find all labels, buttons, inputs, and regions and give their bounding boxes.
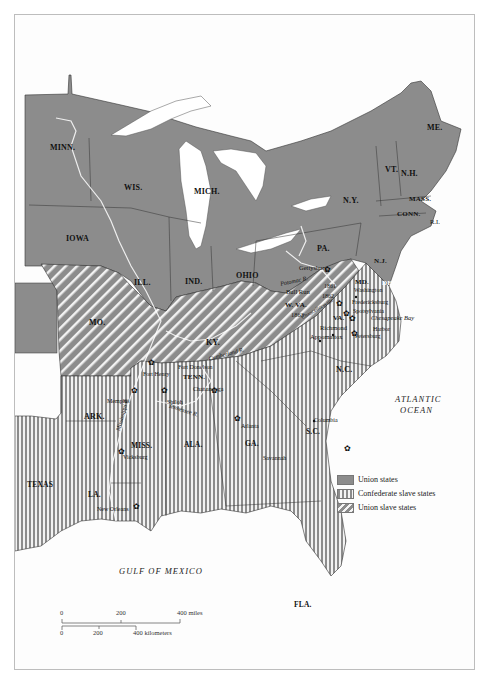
atlantic-ocean-label-line2: OCEAN (400, 405, 433, 415)
city-petersburg: Petersburg (355, 333, 381, 339)
state-label-ohio: OHIO (236, 271, 259, 280)
union-slave-swatch (337, 503, 354, 513)
legend-label-confederate: Confederate slave states (358, 489, 435, 498)
city-fort-henry: Fort Henry (143, 371, 170, 377)
svg-text:✿: ✿ (234, 414, 241, 423)
state-label-nh: N.H. (401, 169, 418, 178)
svg-text:✿: ✿ (349, 314, 356, 323)
legend-item-union-slave: Union slave states (337, 501, 435, 514)
city-harbor: Harbor (373, 326, 390, 332)
scale-miles-400: 400 miles (177, 609, 202, 616)
svg-text:✿: ✿ (148, 358, 155, 367)
city-savannah: Savannah (263, 455, 286, 461)
state-label-pa: PA. (317, 244, 330, 253)
state-label-la: LA. (88, 490, 101, 499)
state-label-mich: MICH. (194, 187, 220, 196)
state-label-wva: W. VA. (285, 301, 307, 309)
state-label-vt: VT. (385, 165, 398, 174)
city-richmond: Richmond (320, 324, 347, 331)
state-label-tenn: TENN. (183, 373, 205, 381)
state-label-fla: FLA. (294, 600, 312, 609)
map-frame: ✿ ✿ ✿ ✿ ✿ ✿ ✿ ✿ ✿ ✿ ✿ ✿ ✿ MINN. WIS. MIC… (14, 14, 475, 670)
state-label-ind: IND. (185, 277, 202, 286)
union-swatch (337, 475, 354, 485)
state-label-ill: ILL. (134, 278, 151, 287)
state-label-mo: MO. (89, 318, 105, 327)
gulf-of-mexico-label: GULF OF MEXICO (119, 566, 203, 576)
state-label-me: ME. (427, 123, 443, 132)
legend-item-union: Union states (337, 473, 435, 486)
map-legend: Union states Confederate slave states Un… (337, 473, 435, 515)
scale-miles-200: 200 (116, 609, 126, 616)
city-new-orleans: New Orleans (97, 506, 129, 512)
state-label-ga: GA. (245, 439, 259, 448)
state-label-texas: TEXAS (27, 480, 53, 489)
state-label-ark: ARK. (84, 412, 105, 421)
chesapeake-bay-label: Chesapeake Bay (371, 314, 414, 321)
scale-miles-0: 0 (60, 609, 63, 616)
city-chattanooga: Chattanooga (193, 386, 223, 392)
city-gettysburg: Gettysburg (299, 264, 328, 271)
state-label-sc: S.C. (306, 427, 320, 436)
legend-label-union-slave: Union slave states (358, 503, 416, 512)
state-label-nc: N.C. (336, 365, 352, 374)
scale-km-400: 400 kilometers (133, 629, 172, 636)
state-label-ri: R.I. (430, 218, 440, 225)
city-bull-run: Bull Run (286, 288, 310, 295)
state-label-va: VA. (333, 314, 345, 322)
city-fort-donelson: Fort Donelson (178, 364, 213, 370)
state-label-ky: KY. (206, 338, 220, 347)
svg-text:✿: ✿ (161, 386, 168, 395)
state-label-conn: CONN. (397, 210, 420, 218)
scale-km-200: 200 (93, 629, 103, 636)
city-appomattox: Appomattox (310, 333, 343, 340)
state-label-iowa: IOWA (66, 234, 89, 243)
state-label-del: DEL. (382, 279, 399, 287)
scale-bar: 0 200 400 miles 0 200 400 kilometers (59, 605, 239, 645)
city-fredericksburg: Fredericksburg (352, 299, 388, 305)
svg-text:✿: ✿ (133, 502, 140, 511)
svg-text:✿: ✿ (344, 444, 351, 453)
kansas-region (15, 283, 57, 353)
svg-text:✿: ✿ (131, 386, 138, 395)
confederate-swatch (337, 489, 354, 499)
state-label-md: MD. (355, 278, 369, 286)
state-label-ny: N.Y. (343, 196, 359, 205)
city-atlanta: Atlanta (241, 423, 259, 429)
city-washington: Washington (354, 287, 383, 293)
legend-label-union: Union states (358, 475, 398, 484)
svg-text:✿: ✿ (336, 299, 343, 308)
atlantic-ocean-label-line1: ATLANTIC (395, 394, 441, 404)
city-vicksburg: Vicksburg (123, 454, 148, 460)
year-1861: 1861 (324, 283, 336, 289)
legend-item-confederate: Confederate slave states (337, 487, 435, 500)
state-label-nj: N.J. (374, 257, 387, 265)
city-columbia: Columbia (314, 417, 338, 423)
state-label-wis: WIS. (124, 183, 142, 192)
state-label-mass: MASS. (409, 195, 431, 203)
scale-km-0: 0 (60, 629, 63, 636)
state-label-ala: ALA. (184, 440, 203, 449)
scale-lines (59, 605, 239, 645)
civil-war-map: ✿ ✿ ✿ ✿ ✿ ✿ ✿ ✿ ✿ ✿ ✿ ✿ ✿ (15, 15, 474, 669)
state-label-minn: MINN. (50, 143, 75, 152)
state-label-miss: MISS. (131, 441, 152, 450)
